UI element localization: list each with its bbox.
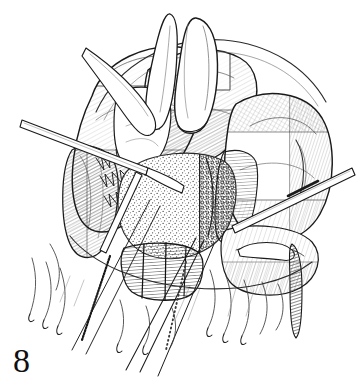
- lower-right-tissue: [216, 218, 326, 302]
- figure-number-label: 8: [13, 341, 30, 381]
- illustration-ink: [20, 14, 355, 376]
- braided-suture-thread: [82, 256, 110, 340]
- surgical-illustration: [0, 0, 363, 390]
- figure-container: 8: [0, 0, 363, 390]
